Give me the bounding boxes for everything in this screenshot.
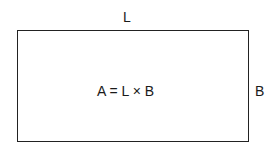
area-formula: A = L × B bbox=[97, 84, 154, 98]
breadth-label: B bbox=[255, 84, 264, 98]
length-label: L bbox=[123, 10, 131, 24]
